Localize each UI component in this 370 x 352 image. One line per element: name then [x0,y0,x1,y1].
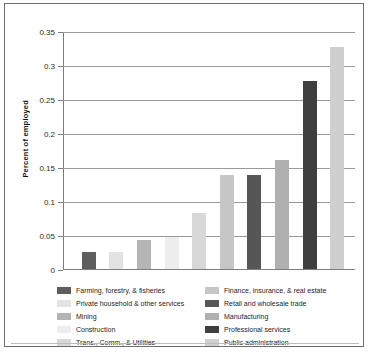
legend-swatch [205,313,219,320]
legend-item: Professional services [205,324,357,335]
y-axis-line [63,32,64,270]
y-tick-mark [58,32,63,33]
legend-item: Mining [57,311,205,322]
gridline [63,66,355,67]
chart-legend: Farming, forestry, & fisheriesPrivate ho… [57,285,357,348]
y-tick-label: 0.35 [39,28,55,37]
legend-label: Retail and wholesale trade [224,300,307,308]
bar [303,81,317,269]
legend-item: Manufacturing [205,311,357,322]
chart-figure: Percent of employed 00.050.10.150.20.250… [4,3,364,347]
y-tick-mark [58,270,63,271]
legend-swatch [205,287,219,294]
bar [220,175,234,269]
legend-item: Retail and wholesale trade [205,298,357,309]
y-axis-title: Percent of employed [21,100,30,178]
legend-swatch [205,326,219,333]
legend-column-right: Finance, insurance, & real estateRetail … [205,285,357,348]
legend-divider [11,343,359,344]
x-axis-line [63,269,355,270]
bar [275,160,289,269]
y-tick-label: 0 [51,266,55,275]
bar [192,213,206,269]
legend-item: Farming, forestry, & fisheries [57,285,205,296]
y-tick-mark [58,202,63,203]
y-tick-mark [58,168,63,169]
legend-label: Professional services [224,326,290,334]
bar [165,237,179,269]
bar [330,47,344,269]
legend-label: Mining [76,313,97,321]
plot-area: 00.050.10.150.20.250.30.35 [63,32,355,270]
y-tick-label: 0.1 [44,198,55,207]
bar [137,240,151,269]
bar [82,252,96,269]
y-tick-mark [58,66,63,67]
legend-label: Finance, insurance, & real estate [224,287,326,295]
y-tick-label: 0.05 [39,232,55,241]
legend-swatch [57,300,71,307]
y-tick-label: 0.15 [39,164,55,173]
y-tick-label: 0.2 [44,130,55,139]
legend-label: Construction [76,326,115,334]
y-tick-label: 0.25 [39,96,55,105]
legend-swatch [57,326,71,333]
bar [109,252,123,269]
legend-label: Private household & other services [76,300,184,308]
y-tick-mark [58,100,63,101]
legend-swatch [205,300,219,307]
y-tick-label: 0.3 [44,62,55,71]
legend-item: Finance, insurance, & real estate [205,285,357,296]
legend-label: Manufacturing [224,313,268,321]
legend-swatch [57,287,71,294]
bar [247,175,261,269]
legend-item: Construction [57,324,205,335]
gridline [63,32,355,33]
y-tick-mark [58,236,63,237]
legend-label: Farming, forestry, & fisheries [76,287,165,295]
legend-swatch [57,313,71,320]
legend-column-left: Farming, forestry, & fisheriesPrivate ho… [57,285,205,348]
y-tick-mark [58,134,63,135]
legend-item: Private household & other services [57,298,205,309]
